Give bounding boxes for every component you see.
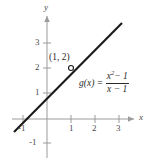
x-tick-label--1: -1: [18, 124, 26, 133]
function-formula: g(x) = x2− 1 x − 1: [79, 70, 129, 95]
graph-figure: y x -1 1 2 3 3 2 1 -1 (1, 2) g(x) = x2− …: [0, 0, 156, 164]
y-tick-label-3: 3: [35, 38, 40, 47]
y-tick-label-1: 1: [35, 88, 40, 97]
y-axis-arrow: [44, 16, 50, 22]
x-tick-label-3: 3: [116, 124, 121, 133]
formula-equals: =: [97, 78, 102, 88]
x-axis-label: x: [139, 113, 143, 122]
open-circle-point: [69, 66, 74, 71]
coordinate-plane: [0, 0, 156, 164]
x-tick-label-1: 1: [69, 124, 74, 133]
y-axis-label: y: [44, 3, 48, 12]
point-annotation-label: (1, 2): [49, 52, 70, 62]
y-tick-label-2: 2: [35, 63, 40, 72]
x-axis-arrow: [128, 116, 134, 122]
y-tick-label--1: -1: [29, 138, 37, 147]
numerator-tail: − 1: [114, 71, 128, 81]
formula-numerator: x2− 1: [106, 70, 129, 82]
x-tick-label-2: 2: [92, 124, 97, 133]
formula-function-name: g(x): [79, 78, 94, 88]
formula-denominator: x − 1: [106, 85, 128, 95]
formula-fraction: x2− 1 x − 1: [106, 70, 129, 95]
